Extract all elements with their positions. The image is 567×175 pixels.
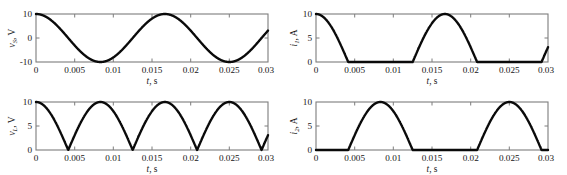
x-axis-label: t, s	[427, 76, 438, 86]
x-ticklabel: 0	[34, 153, 39, 163]
plot-svg-current-i1: 10 5 0 0 0.005 0.01 0.015 0.02 0.025 0.0…	[284, 0, 567, 87]
four-panel-waveform-figure: 10 0 -10 0 0.005 0.01 0.015 0.02 0.025 0…	[0, 0, 567, 175]
x-axis-label: t, s	[427, 164, 438, 174]
y-ticklabel: 10	[303, 97, 313, 107]
plot-svg-load-voltage: 10 5 0 0 0.005 0.01 0.015 0.02 0.025 0.0…	[0, 88, 283, 175]
x-ticklabel: 0.025	[219, 153, 240, 163]
x-ticklabel: 0.02	[183, 153, 199, 163]
x-ticklabel: 0.03	[258, 153, 274, 163]
x-ticklabel: 0.005	[344, 65, 365, 75]
x-ticklabel: 0	[314, 65, 319, 75]
x-ticklabel: 0	[34, 65, 39, 75]
y-ticklabel: 0	[27, 145, 32, 155]
x-ticklabel: 0.03	[538, 153, 554, 163]
x-ticklabel: 0.015	[142, 153, 163, 163]
y-ticklabel: -10	[20, 57, 33, 67]
plot-panel-load-voltage: 10 5 0 0 0.005 0.01 0.015 0.02 0.025 0.0…	[0, 88, 283, 175]
x-ticklabel: 0.015	[422, 65, 443, 75]
x-ticklabel: 0.015	[422, 153, 443, 163]
x-ticklabel: 0.025	[499, 153, 520, 163]
y-ticklabel: 5	[307, 33, 312, 43]
x-ticklabel: 0.03	[258, 65, 274, 75]
x-ticklabel: 0.01	[385, 65, 401, 75]
x-ticklabel: 0.01	[385, 153, 401, 163]
x-ticklabel: 0.03	[538, 65, 554, 75]
y-ticklabel: 0	[307, 57, 312, 67]
y-ticklabel: 10	[303, 9, 313, 19]
y-axis-label: i2, A	[289, 117, 300, 134]
x-ticklabel: 0.01	[105, 65, 121, 75]
waveform-curve	[36, 14, 268, 62]
x-ticklabel: 0.01	[105, 153, 121, 163]
y-ticklabel: 10	[23, 97, 33, 107]
waveform-curve	[316, 102, 548, 150]
waveform-curve	[36, 102, 268, 150]
plot-panel-current-i1: 10 5 0 0 0.005 0.01 0.015 0.02 0.025 0.0…	[284, 0, 567, 87]
x-ticklabel: 0.005	[64, 65, 85, 75]
y-ticklabel: 0	[307, 145, 312, 155]
x-axis-label: t, s	[147, 76, 158, 86]
x-ticklabel: 0.005	[64, 153, 85, 163]
x-ticklabel: 0	[314, 153, 319, 163]
y-axis-label: vL, V	[7, 116, 18, 135]
x-axis-label: t, s	[147, 164, 158, 174]
x-ticklabel: 0.02	[183, 65, 199, 75]
waveform-curve	[316, 14, 548, 62]
y-ticklabel: 5	[27, 121, 32, 131]
plot-panel-current-i2: 10 5 0 0 0.005 0.01 0.015 0.02 0.025 0.0…	[284, 88, 567, 175]
plot-svg-current-i2: 10 5 0 0 0.005 0.01 0.015 0.02 0.025 0.0…	[284, 88, 567, 175]
x-ticklabel: 0.005	[344, 153, 365, 163]
y-axis-label: i1, A	[289, 29, 300, 46]
plot-frame	[36, 14, 268, 62]
x-ticklabel: 0.015	[142, 65, 163, 75]
y-axis-label: vS, V	[7, 28, 18, 47]
y-ticklabel: 5	[307, 121, 312, 131]
x-ticklabel: 0.025	[499, 65, 520, 75]
y-ticklabel: 10	[23, 9, 33, 19]
y-ticklabel: 0	[27, 33, 32, 43]
x-ticklabel: 0.02	[463, 153, 479, 163]
plot-svg-source-voltage: 10 0 -10 0 0.005 0.01 0.015 0.02 0.025 0…	[0, 0, 283, 87]
x-ticklabel: 0.02	[463, 65, 479, 75]
plot-panel-source-voltage: 10 0 -10 0 0.005 0.01 0.015 0.02 0.025 0…	[0, 0, 283, 87]
x-ticklabel: 0.025	[219, 65, 240, 75]
